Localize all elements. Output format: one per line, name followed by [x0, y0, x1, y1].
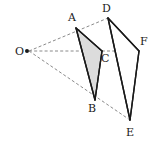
ray-O-B-E: [29, 51, 130, 120]
label-C: C: [101, 52, 109, 65]
label-E: E: [126, 126, 134, 139]
label-O: O: [15, 45, 24, 58]
figure-canvas: O A B C D E F: [0, 0, 158, 142]
point-O-dot: [25, 49, 29, 53]
label-A: A: [67, 11, 77, 24]
label-D: D: [102, 2, 111, 15]
label-B: B: [88, 102, 96, 115]
triangle-DEF: [108, 18, 139, 120]
geometry-figure: O A B C D E F: [0, 0, 158, 142]
label-F: F: [140, 35, 148, 48]
